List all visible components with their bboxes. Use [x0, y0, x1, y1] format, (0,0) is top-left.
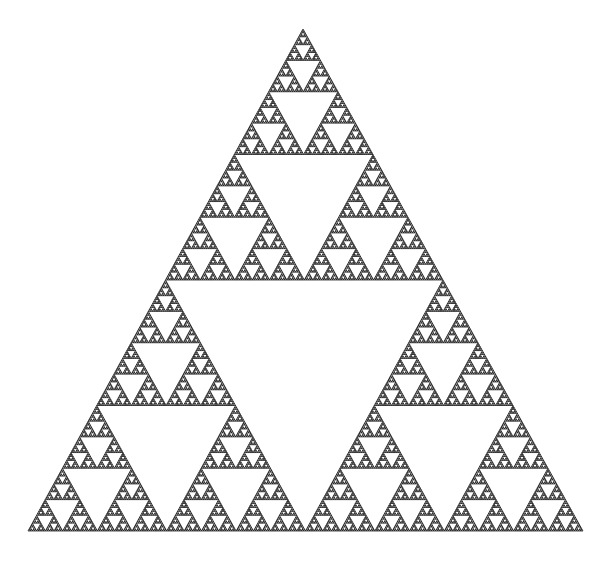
sierpinski-triangle [0, 0, 614, 569]
fractal-canvas [0, 0, 614, 569]
